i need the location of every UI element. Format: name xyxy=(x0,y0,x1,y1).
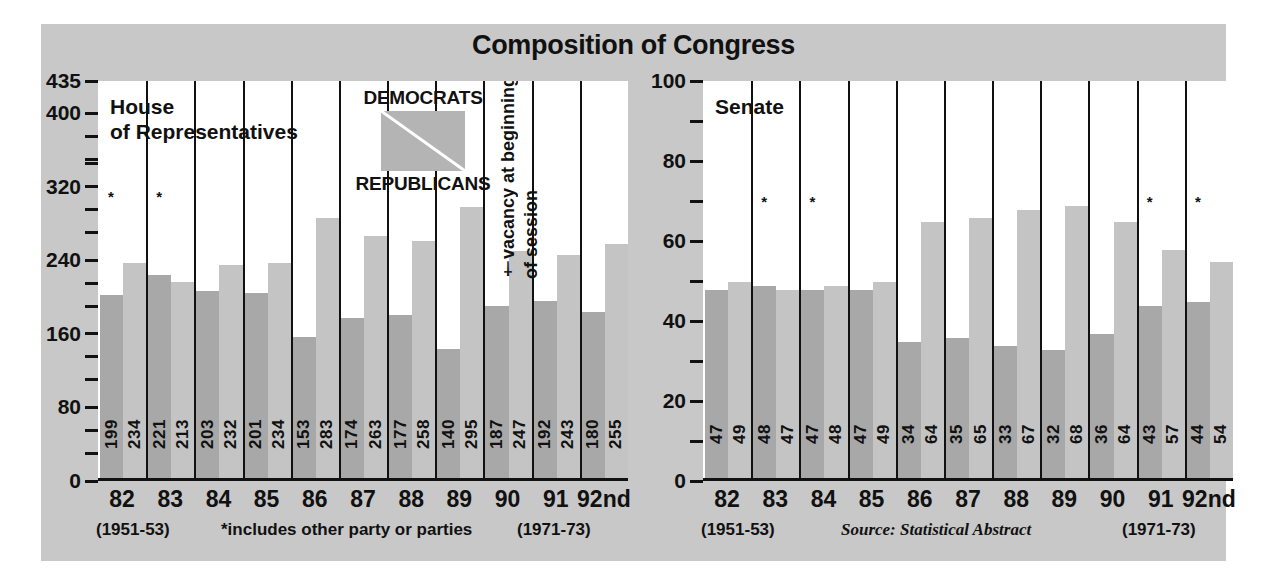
bar-democrats: 201 xyxy=(245,293,268,478)
y-tick-mark xyxy=(85,231,98,234)
asterisk-marker: * xyxy=(761,194,767,209)
x-tick-label: 90 xyxy=(495,486,521,513)
x-tick-label: 86 xyxy=(907,486,933,513)
y-tick-label: 80 xyxy=(58,395,81,419)
legend-republicans-label: REPUBLICANS xyxy=(343,173,503,195)
bar-republicans: 234 xyxy=(268,263,291,478)
bar-democrats: 33 xyxy=(994,346,1017,478)
y-tick-mark xyxy=(690,160,703,163)
y-tick-mark xyxy=(690,240,703,243)
bar-value-label: 36 xyxy=(1092,424,1112,444)
legend-democrats-label: DEMOCRATS xyxy=(343,87,503,109)
y-tick-mark xyxy=(690,200,703,203)
vacancy-note-line1: †vacancy at beginning xyxy=(498,89,519,279)
bar-republicans: 232 xyxy=(219,265,242,478)
bar-value-label: 48 xyxy=(826,424,846,444)
panel-title-house: Houseof Representatives xyxy=(110,95,298,145)
bar-value-label: 67 xyxy=(1019,424,1039,444)
bar-value-label: 174 xyxy=(342,419,362,449)
bar-value-label: 221 xyxy=(150,419,170,449)
bar-democrats: 180 xyxy=(582,312,605,478)
bar-value-label: 47 xyxy=(707,424,727,444)
bar-republicans: 263 xyxy=(364,236,387,478)
x-tick-label: 87 xyxy=(350,486,376,513)
bar-value-label: 54 xyxy=(1211,424,1231,444)
bar-value-label: 64 xyxy=(922,424,942,444)
bar-group: 4749 xyxy=(848,81,896,478)
y-tick-mark xyxy=(85,135,98,138)
y-tick-mark xyxy=(85,305,98,308)
bar-value-label: 32 xyxy=(1044,424,1064,444)
bar-value-label: 68 xyxy=(1067,424,1087,444)
y-tick-mark xyxy=(85,185,98,188)
y-tick-mark xyxy=(690,120,703,123)
bar-democrats: 221 xyxy=(148,275,171,478)
bar-value-label: 49 xyxy=(730,424,750,444)
footnote-house-asterisk: *includes other party or parties xyxy=(221,520,472,540)
y-tick-mark xyxy=(85,158,98,161)
bar-value-label: 283 xyxy=(317,419,337,449)
bar-democrats: 140 xyxy=(437,349,460,478)
bar-democrats: 187 xyxy=(485,306,508,478)
y-tick-label: 0 xyxy=(674,469,686,493)
bar-value-label: 47 xyxy=(803,424,823,444)
y-tick-label: 435 xyxy=(46,69,81,93)
bar-republicans: 258 xyxy=(412,241,435,478)
bar-democrats: 47 xyxy=(801,290,824,478)
bar-democrats: 48 xyxy=(753,286,776,478)
bar-value-label: 232 xyxy=(221,419,241,449)
bar-democrats: 174 xyxy=(341,318,364,478)
x-tick-label: 87 xyxy=(955,486,981,513)
bar-democrats: 32 xyxy=(1042,350,1065,478)
panel-title-senate: Senate xyxy=(715,95,784,120)
footnote-senate-left: (1951-53) xyxy=(701,520,775,540)
y-tick-mark xyxy=(85,80,98,83)
x-tick-label: 86 xyxy=(302,486,328,513)
bar-value-label: 243 xyxy=(558,419,578,449)
y-tick-label: 320 xyxy=(46,175,81,199)
bar-group: 4847* xyxy=(751,81,799,478)
x-tick-label: 83 xyxy=(762,486,788,513)
y-tick-mark xyxy=(85,112,98,115)
y-tick-mark xyxy=(690,280,703,283)
x-tick-label: 88 xyxy=(398,486,424,513)
bar-democrats: 35 xyxy=(946,338,969,478)
bar-republicans: 65 xyxy=(969,218,992,478)
y-tick-mark xyxy=(85,259,98,262)
bar-value-label: 180 xyxy=(583,419,603,449)
y-tick-mark xyxy=(690,80,703,83)
footnote-senate-source: Source: Statistical Abstract xyxy=(841,520,1031,540)
x-tick-label: 90 xyxy=(1100,486,1126,513)
bar-value-label: 64 xyxy=(1115,424,1135,444)
asterisk-marker: * xyxy=(108,188,114,203)
bar-republicans: 247 xyxy=(509,251,532,478)
bar-republicans: 64 xyxy=(1114,222,1137,478)
y-tick-mark xyxy=(690,320,703,323)
bar-republicans: 213 xyxy=(171,282,194,478)
y-tick-mark xyxy=(85,208,98,211)
bar-value-label: 43 xyxy=(1140,424,1160,444)
y-tick-label: 400 xyxy=(46,101,81,125)
bar-value-label: 47 xyxy=(778,424,798,444)
bar-democrats: 36 xyxy=(1090,334,1113,478)
y-tick-mark xyxy=(85,378,98,381)
bars-senate: 47494847*4748*47493464356533673268366443… xyxy=(703,81,1233,478)
legend-swatch xyxy=(381,111,465,171)
footnote-house-right: (1971-73) xyxy=(517,520,591,540)
legend-diagonal-divider xyxy=(381,111,465,171)
bar-group: 3664 xyxy=(1088,81,1136,478)
bar-value-label: 201 xyxy=(246,419,266,449)
legend: DEMOCRATS REPUBLICANS xyxy=(343,87,503,195)
bar-value-label: 258 xyxy=(414,419,434,449)
bar-value-label: 255 xyxy=(606,419,626,449)
y-tick-mark xyxy=(85,355,98,358)
bar-value-label: 263 xyxy=(366,419,386,449)
y-tick-mark xyxy=(690,440,703,443)
x-tick-label: 92nd xyxy=(1182,486,1236,513)
bar-value-label: 44 xyxy=(1188,424,1208,444)
x-axis-senate: 8283848586878889909192nd xyxy=(703,486,1233,520)
y-tick-label: 60 xyxy=(663,229,686,253)
vacancy-note-line2: of session xyxy=(521,89,542,279)
bar-group: 3464 xyxy=(896,81,944,478)
bar-value-label: 203 xyxy=(198,419,218,449)
